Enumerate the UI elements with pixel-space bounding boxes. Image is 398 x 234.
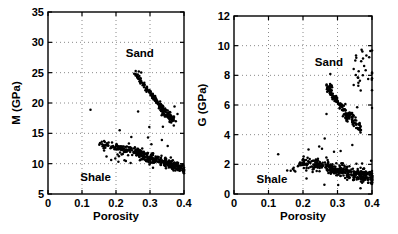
- data-point: [139, 151, 142, 154]
- data-point: [369, 172, 372, 175]
- data-point: [176, 113, 179, 116]
- data-point: [350, 112, 353, 115]
- data-point: [355, 74, 358, 77]
- data-point: [175, 120, 178, 123]
- data-point: [305, 177, 308, 180]
- data-point: [308, 158, 311, 161]
- data-point: [325, 165, 328, 168]
- data-point: [360, 60, 363, 63]
- data-point: [338, 164, 341, 167]
- data-point: [361, 182, 364, 185]
- data-point: [170, 156, 173, 159]
- data-point: [165, 115, 168, 118]
- data-point: [164, 163, 167, 166]
- data-point: [356, 106, 359, 109]
- data-point: [103, 140, 106, 143]
- data-point: [329, 170, 332, 173]
- data-point: [149, 91, 152, 94]
- data-point: [114, 157, 117, 160]
- data-point: [101, 145, 104, 148]
- data-point: [351, 144, 354, 147]
- data-point: [134, 70, 137, 73]
- data-point: [162, 112, 165, 115]
- data-point: [160, 157, 163, 160]
- data-point: [145, 90, 148, 93]
- data-point: [110, 159, 113, 162]
- data-point: [138, 155, 141, 158]
- x-tick-label: 0: [45, 197, 51, 209]
- data-point: [342, 108, 345, 111]
- data-point: [352, 170, 355, 173]
- data-point: [177, 162, 180, 165]
- data-point: [122, 153, 125, 156]
- data-point: [348, 117, 351, 120]
- data-point: [325, 113, 328, 116]
- data-point: [357, 81, 360, 84]
- data-point: [355, 124, 358, 127]
- y-tick-label: 15: [32, 127, 44, 139]
- data-point: [331, 163, 334, 166]
- data-point: [172, 159, 175, 162]
- data-point: [361, 162, 364, 165]
- data-point: [155, 101, 158, 104]
- data-point: [337, 168, 340, 171]
- data-point: [337, 184, 340, 187]
- data-point: [366, 178, 369, 181]
- data-point: [111, 141, 114, 144]
- data-point: [356, 168, 359, 171]
- data-point: [171, 168, 174, 171]
- y-tick-label: 10: [218, 40, 230, 52]
- rock-physics-figure: 00.10.20.30.45101520253035PorosityM (GPa…: [0, 0, 398, 234]
- data-point: [173, 116, 176, 119]
- data-point: [325, 156, 328, 159]
- data-point: [361, 50, 364, 53]
- data-point: [358, 128, 361, 131]
- annotation-sand: Sand: [315, 56, 343, 68]
- y-tick-label: 4: [224, 129, 231, 141]
- data-point: [359, 131, 362, 134]
- grid: [48, 12, 184, 194]
- data-point: [139, 159, 142, 162]
- data-point: [152, 93, 155, 96]
- data-point: [346, 165, 349, 168]
- data-point: [354, 59, 357, 62]
- data-point: [149, 162, 152, 165]
- data-point: [344, 170, 347, 173]
- data-point: [173, 105, 176, 108]
- data-point: [350, 173, 353, 176]
- data-point: [307, 148, 310, 151]
- data-point: [126, 145, 128, 148]
- data-point: [343, 164, 346, 167]
- data-point: [148, 126, 151, 129]
- data-point: [161, 139, 164, 142]
- y-tick-label: 2: [224, 158, 230, 170]
- data-point: [362, 74, 365, 77]
- data-point: [112, 145, 115, 148]
- data-point: [364, 174, 367, 177]
- data-point: [335, 95, 338, 98]
- data-point: [341, 171, 344, 174]
- data-point: [104, 146, 107, 149]
- data-point: [326, 88, 329, 91]
- annotation-shale: Shale: [80, 171, 111, 183]
- data-point: [160, 161, 163, 164]
- data-point: [329, 88, 332, 91]
- y-tick-label: 8: [224, 69, 230, 81]
- data-point: [354, 116, 357, 119]
- data-point: [362, 57, 365, 60]
- data-point: [342, 167, 345, 170]
- data-point: [344, 177, 347, 180]
- annotation-shale: Shale: [257, 173, 288, 185]
- data-point: [139, 82, 142, 85]
- data-point: [325, 168, 328, 171]
- data-point: [328, 92, 331, 95]
- data-point: [115, 145, 118, 148]
- data-point: [146, 88, 149, 91]
- data-point: [164, 157, 167, 160]
- data-point: [355, 57, 358, 60]
- data-point: [341, 105, 344, 108]
- series-sand-points: [89, 70, 179, 148]
- data-point: [352, 122, 355, 125]
- data-point: [333, 172, 336, 175]
- right-plot: 00.10.20.30.4024681012PorosityG (GPa)San…: [196, 10, 381, 222]
